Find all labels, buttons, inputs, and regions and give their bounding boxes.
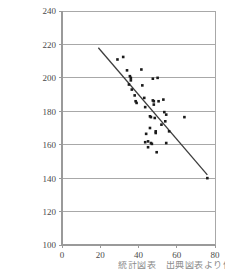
scatter-point	[160, 123, 163, 126]
scatter-point	[144, 106, 147, 109]
y-tick-label-240: 240	[43, 6, 57, 16]
scatter-point	[163, 111, 166, 114]
scatter-point	[183, 116, 186, 119]
scatter-point	[141, 84, 144, 87]
scatter-point	[143, 97, 146, 100]
x-tick-label-0: 0	[60, 250, 65, 260]
scatter-point	[168, 130, 171, 133]
y-tick-label-140: 140	[43, 174, 57, 184]
scatter-point	[145, 133, 148, 136]
scatter-point	[128, 83, 131, 86]
x-tick-label-20: 20	[96, 250, 106, 260]
scatter-point	[149, 127, 152, 130]
scatter-point	[154, 132, 157, 135]
x-tick-label-80: 80	[211, 250, 221, 260]
scatter-point	[147, 140, 150, 143]
y-tick-label-200: 200	[43, 73, 57, 83]
scatter-point	[153, 100, 156, 103]
y-tick-label-100: 100	[43, 240, 57, 250]
scatter-point	[126, 69, 129, 72]
x-tick-label-40: 40	[134, 250, 144, 260]
scatter-point	[150, 116, 153, 119]
scatter-point	[130, 79, 133, 82]
x-tick-label-60: 60	[172, 250, 182, 260]
y-tick-label-180: 180	[43, 107, 57, 117]
y-tick-label-120: 120	[43, 207, 57, 217]
chart-caption: 統計図表 出典図表より作成	[118, 261, 225, 269]
scatter-point	[156, 77, 159, 80]
scatter-point	[152, 77, 155, 80]
scatter-point	[116, 58, 119, 61]
scatter-point	[140, 68, 143, 71]
scatter-point	[206, 177, 209, 180]
scatter-point	[151, 143, 154, 146]
scatter-point	[162, 98, 165, 101]
scatter-point	[164, 120, 167, 123]
scatter-point	[135, 102, 138, 105]
scatter-point	[144, 141, 147, 144]
scatter-chart: 100120140160180200220240020406080 統計図表 出…	[0, 0, 225, 269]
y-tick-label-220: 220	[43, 40, 57, 50]
scatter-point	[165, 142, 168, 145]
scatter-point	[147, 146, 150, 149]
scatter-point	[130, 77, 133, 80]
scatter-point	[165, 113, 168, 116]
scatter-point	[153, 117, 156, 120]
scatter-point	[122, 56, 125, 59]
scatter-point	[133, 94, 136, 97]
scatter-point	[155, 151, 158, 154]
chart-canvas: 100120140160180200220240020406080	[0, 0, 225, 269]
y-tick-label-160: 160	[43, 140, 57, 150]
scatter-point	[153, 103, 156, 106]
scatter-point	[157, 100, 160, 103]
scatter-point	[131, 88, 134, 91]
